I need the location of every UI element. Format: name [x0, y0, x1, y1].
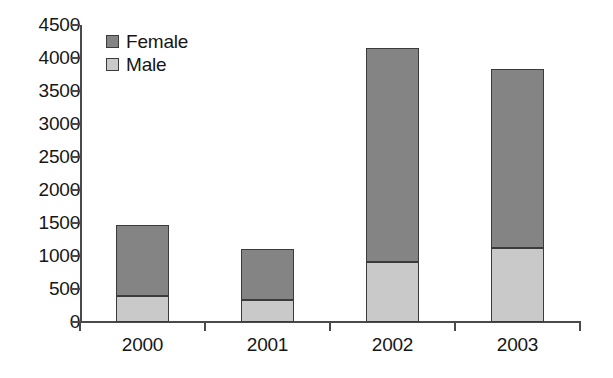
legend-item-male: Male — [106, 53, 188, 76]
y-tick-2500: 2500 — [0, 156, 80, 158]
y-tick-mark — [71, 24, 80, 26]
y-tick-mark — [71, 222, 80, 224]
bar-segment-female — [491, 69, 544, 248]
y-tick-2000: 2000 — [0, 189, 80, 191]
bar-stack — [241, 249, 294, 322]
stacked-bar-chart: 050010001500200025003000350040004500 200… — [0, 0, 613, 378]
y-tick-1000: 1000 — [0, 255, 80, 257]
bar-stack — [366, 48, 419, 322]
x-tick-label-2003: 2003 — [455, 334, 580, 356]
legend-swatch-male-icon — [106, 58, 119, 71]
y-tick-mark — [71, 288, 80, 290]
legend-item-female: Female — [106, 30, 188, 53]
y-tick-mark — [71, 156, 80, 158]
y-tick-4500: 4500 — [0, 24, 80, 26]
x-tick-mark — [204, 321, 206, 331]
y-tick-mark — [71, 255, 80, 257]
y-tick-1500: 1500 — [0, 222, 80, 224]
x-tick-label-2001: 2001 — [205, 334, 330, 356]
chart-legend: Female Male — [106, 30, 188, 76]
bar-segment-male — [366, 262, 419, 322]
y-axis-line — [80, 25, 82, 323]
y-tick-0: 0 — [0, 321, 80, 323]
y-tick-3000: 3000 — [0, 123, 80, 125]
x-tick-label-2002: 2002 — [330, 334, 455, 356]
y-tick-mark — [71, 189, 80, 191]
x-tick-mark — [79, 321, 81, 331]
y-tick-mark — [71, 90, 80, 92]
y-tick-4000: 4000 — [0, 57, 80, 59]
bar-segment-male — [491, 248, 544, 322]
legend-swatch-female-icon — [106, 35, 119, 48]
bar-segment-male — [241, 300, 294, 322]
bar-segment-female — [116, 225, 169, 296]
x-tick-label-2000: 2000 — [80, 334, 205, 356]
bar-stack — [491, 69, 544, 322]
bar-segment-female — [241, 249, 294, 300]
y-tick-mark — [71, 123, 80, 125]
x-tick-mark — [579, 321, 581, 331]
legend-label-male: Male — [126, 55, 166, 74]
bar-stack — [116, 225, 169, 322]
y-tick-3500: 3500 — [0, 90, 80, 92]
bar-segment-male — [116, 296, 169, 322]
bar-segment-female — [366, 48, 419, 262]
y-tick-500: 500 — [0, 288, 80, 290]
x-tick-mark — [329, 321, 331, 331]
x-tick-mark — [454, 321, 456, 331]
legend-label-female: Female — [126, 32, 188, 51]
y-tick-mark — [71, 57, 80, 59]
